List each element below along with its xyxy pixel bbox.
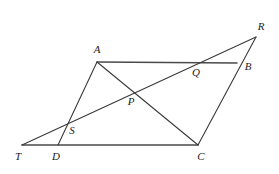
vertex-label-c: C [197,150,205,162]
vertex-label-a: A [93,43,101,55]
vertex-label-r: R [257,20,265,32]
geometry-diagram: RABQPSTDC [0,0,279,174]
vertex-label-s: S [69,124,75,136]
vertex-label-b: B [245,60,252,72]
segment-A-B [97,62,237,63]
vertex-label-p: P [127,95,135,107]
figure-background [0,0,279,174]
vertex-label-d: D [51,150,60,162]
geometry-figure-container: RABQPSTDC [0,0,279,174]
vertex-label-q: Q [192,66,200,78]
vertex-label-t: T [15,150,22,162]
